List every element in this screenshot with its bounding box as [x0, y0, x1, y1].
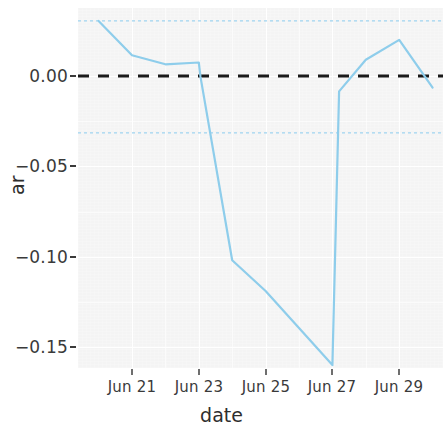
y-tick-label: 0.00 [20, 66, 68, 86]
x-tick-mark [198, 369, 200, 375]
y-tick-label: −0.10 [14, 247, 68, 267]
x-tick-mark [131, 369, 133, 375]
x-tick-mark [331, 369, 333, 375]
y-tick-mark [70, 256, 76, 258]
plot-panel [78, 8, 443, 368]
x-tick-label: Jun 21 [108, 378, 157, 396]
series-layer [78, 8, 443, 368]
ar-data-line [99, 21, 433, 365]
y-tick-label: −0.15 [14, 337, 68, 357]
x-tick-label: Jun 25 [242, 378, 291, 396]
x-tick-mark [265, 369, 267, 375]
y-axis-title: ar [6, 176, 28, 195]
line-chart: 0.00 −0.05 −0.10 −0.15 Jun 21 Jun 23 Jun… [0, 0, 443, 430]
x-axis-title: date [0, 404, 443, 426]
x-tick-label: Jun 27 [308, 378, 357, 396]
y-tick-label: −0.05 [14, 156, 68, 176]
x-tick-label: Jun 29 [375, 378, 424, 396]
y-tick-mark [70, 75, 76, 77]
y-tick-mark [70, 346, 76, 348]
y-tick-mark [70, 165, 76, 167]
x-tick-mark [398, 369, 400, 375]
x-tick-label: Jun 23 [175, 378, 224, 396]
